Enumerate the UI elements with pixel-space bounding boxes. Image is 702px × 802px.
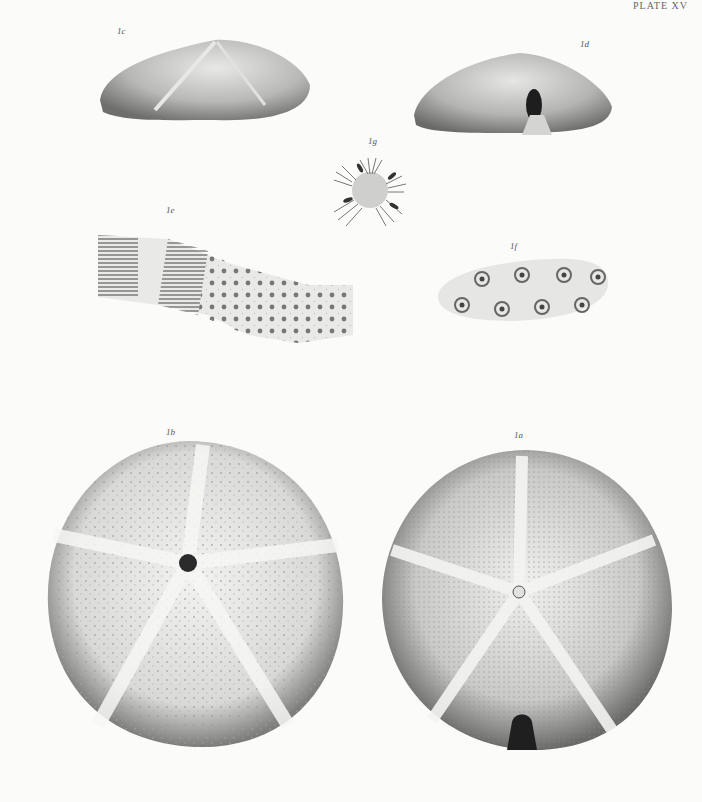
tubercles-illustration — [432, 245, 612, 325]
figure-1a-aboral-surface: 1a — [372, 430, 682, 760]
plate-header: PLATE XV — [633, 0, 688, 11]
ambulacral-plates-illustration — [98, 205, 358, 345]
figure-1e-ambulacral-plates: 1e — [98, 205, 358, 345]
echinoid-side-illustration — [95, 30, 315, 125]
figure-1c-lateral-view: 1c — [95, 30, 315, 125]
figure-1f-tubercles: 1f — [432, 245, 612, 325]
figure-1b-oral-surface: 1b — [38, 425, 348, 755]
echinoid-aboral-illustration — [372, 430, 682, 760]
echinoid-posterior-illustration — [410, 45, 615, 135]
specimen-plate: PLATE XV 1c 1d — [0, 0, 702, 802]
peristome — [179, 554, 197, 572]
echinoid-oral-illustration — [38, 425, 348, 755]
figure-1d-posterior-view: 1d — [410, 45, 615, 135]
